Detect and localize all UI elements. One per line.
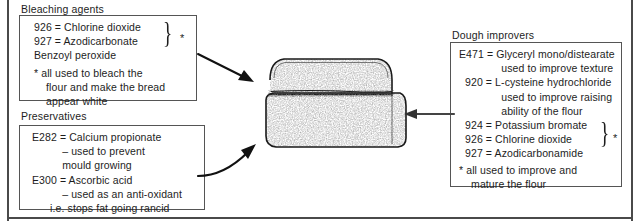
dough-asterisk: * [613,132,617,144]
page-rule-left [7,0,9,221]
box-dough-improvers: E471 = Glyceryl mono/distearate used to … [450,42,622,187]
arrow-dough-to-loaf [400,104,456,124]
dough-line-3: 920 = L-cysteine hydrochloride [459,75,621,89]
preservatives-line-2: – used to prevent [32,144,204,158]
preservatives-line-1: E282 = Calcium propionate [32,130,204,144]
arrow-preservatives-to-loaf [196,140,266,182]
dough-line-9: * all used to improve and [459,163,621,177]
preservatives-line-3: mould growing [32,158,204,172]
loaf-body [250,90,410,160]
bleaching-line-4: * all used to bleach the [34,66,196,80]
bleaching-line-6: appear white [34,94,196,108]
dough-line-4: used to improve raising [459,90,621,104]
bleaching-brace: } [163,17,172,47]
dough-line-2: used to improve texture [459,61,621,75]
dough-line-7: 926 = Chlorine dioxide [459,132,621,146]
preservatives-lines: E282 = Calcium propionate – used to prev… [20,126,204,215]
arrow-bleaching-to-loaf [196,50,262,90]
dough-line-8: 927 = Azodicarbonamide [459,146,621,160]
caption-bleaching-agents: Bleaching agents [21,3,104,15]
diagram-page: Bleaching agents 926 = Chlorine dioxide … [0,0,642,221]
bleaching-line-3: Benzoyl peroxide [34,48,196,62]
page-rule-right [631,0,633,221]
box-preservatives: E282 = Calcium propionate – used to prev… [19,125,205,210]
caption-dough-improvers: Dough improvers [452,29,534,41]
bleaching-asterisk: * [180,32,184,44]
caption-preservatives: Preservatives [21,110,87,122]
bread-loaf-illustration [250,50,410,160]
dough-line-5: ability of the flour [459,104,621,118]
preservatives-line-6: i.e. stops fat going rancid [32,201,204,215]
dough-line-1: E471 = Glyceryl mono/distearate [459,47,621,61]
preservatives-line-4: E300 = Ascorbic acid [32,173,204,187]
dough-line-10: mature the flour [459,177,621,191]
preservatives-line-5: – used as an anti-oxidant [32,187,204,201]
page-rule-bottom [7,217,633,219]
dough-line-6: 924 = Potassium bromate [459,118,621,132]
dough-lines: E471 = Glyceryl mono/distearate used to … [451,43,621,191]
bleaching-line-5: flour and make the bread [34,80,196,94]
dough-brace: } [600,117,609,147]
